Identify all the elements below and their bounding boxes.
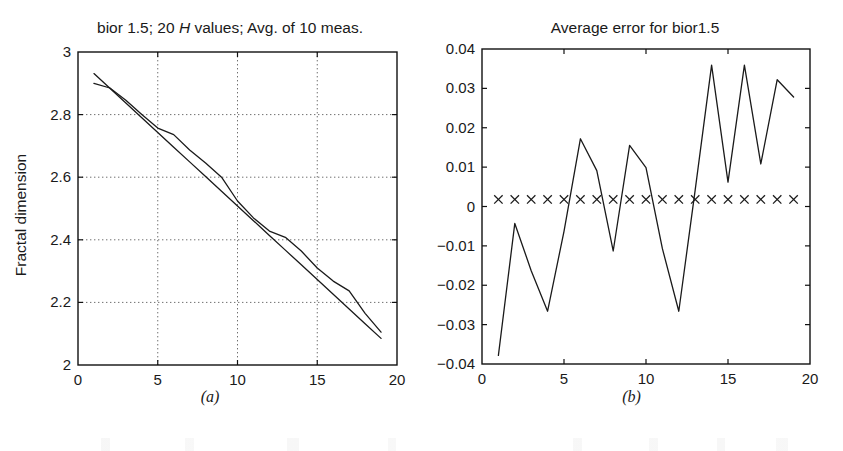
svg-text:20: 20 <box>802 370 819 387</box>
svg-text:15: 15 <box>309 371 326 388</box>
chart-a-gridlines <box>78 52 397 365</box>
chart-b-axes-frame <box>482 49 810 364</box>
svg-text:0.04: 0.04 <box>446 40 475 57</box>
svg-text:−0.04: −0.04 <box>437 355 475 372</box>
svg-text:−0.03: −0.03 <box>437 316 475 333</box>
svg-text:5: 5 <box>560 370 568 387</box>
chart-a-ylabel: Fractal dimension <box>12 154 29 276</box>
svg-text:2.2: 2.2 <box>50 293 71 310</box>
chart-b-svg: Average error for bior1.5 05101520 −0.04… <box>420 0 843 400</box>
svg-text:−0.01: −0.01 <box>437 237 475 254</box>
svg-text:0.01: 0.01 <box>446 158 475 175</box>
chart-panel-b: Average error for bior1.5 05101520 −0.04… <box>420 0 843 451</box>
chart-a-svg: bior 1.5; 20 H values; Avg. of 10 meas. … <box>0 0 420 400</box>
svg-text:0: 0 <box>478 370 486 387</box>
svg-text:20: 20 <box>389 371 406 388</box>
svg-text:15: 15 <box>720 370 737 387</box>
svg-text:10: 10 <box>638 370 655 387</box>
svg-text:−0.02: −0.02 <box>437 276 475 293</box>
svg-text:2.8: 2.8 <box>50 106 71 123</box>
chart-panel-a: bior 1.5; 20 H values; Avg. of 10 meas. … <box>0 0 420 451</box>
svg-text:0.02: 0.02 <box>446 119 475 136</box>
subfigure-caption-a: (a) <box>0 388 420 406</box>
chart-a-yticklabels: 22.22.42.62.83 <box>50 43 71 373</box>
chart-b-series <box>498 65 793 355</box>
svg-text:10: 10 <box>229 371 246 388</box>
chart-a-title: bior 1.5; 20 H values; Avg. of 10 meas. <box>97 19 363 36</box>
svg-text:0: 0 <box>74 371 82 388</box>
svg-text:0.03: 0.03 <box>446 79 475 96</box>
svg-text:2.6: 2.6 <box>50 168 71 185</box>
svg-text:2.4: 2.4 <box>50 231 71 248</box>
chart-b-x-markers <box>494 195 798 203</box>
chart-b-title: Average error for bior1.5 <box>551 19 720 36</box>
chart-b-xticklabels: 05101520 <box>478 370 819 387</box>
svg-text:3: 3 <box>63 43 71 60</box>
figure-container: bior 1.5; 20 H values; Avg. of 10 meas. … <box>0 0 843 451</box>
chart-b-ticks <box>482 49 810 364</box>
scanned-page-artifact <box>0 438 843 451</box>
subfigure-caption-b: (b) <box>420 388 843 406</box>
chart-b-yticklabels: −0.04−0.03−0.02−0.0100.010.020.030.04 <box>437 40 475 372</box>
chart-a-xticklabels: 05101520 <box>74 371 406 388</box>
svg-text:2: 2 <box>63 356 71 373</box>
svg-text:5: 5 <box>154 371 162 388</box>
svg-text:0: 0 <box>467 198 475 215</box>
